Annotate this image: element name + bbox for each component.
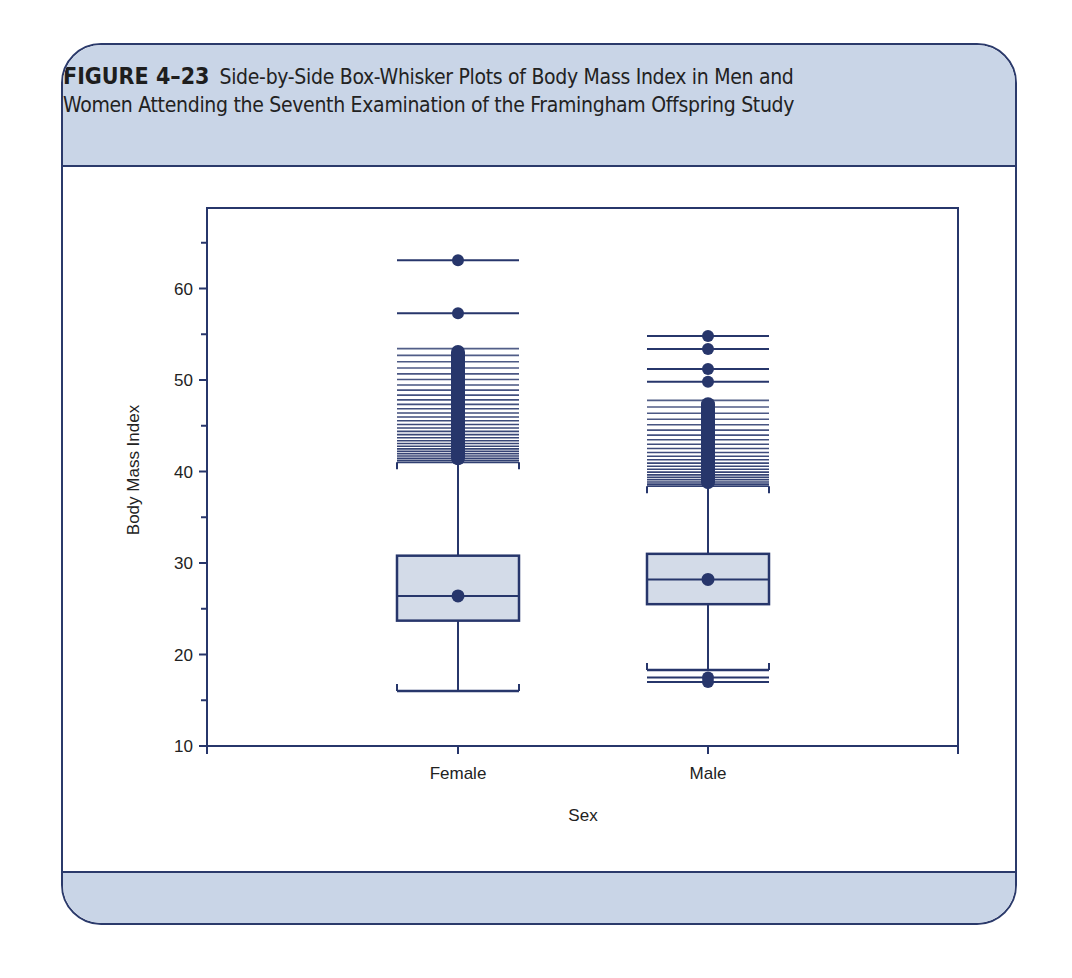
male-outlier-dot <box>702 330 714 342</box>
x-tick-label-male: Male <box>690 764 727 783</box>
female-outlier-dots-band <box>451 345 465 465</box>
female-iqr-box <box>397 556 519 621</box>
female-outlier-dot <box>452 307 464 319</box>
female-mean-dot <box>452 589 465 602</box>
y-axis-label: Body Mass Index <box>124 404 143 535</box>
plot-area-border <box>207 208 958 746</box>
male-outlier-dot <box>702 676 714 688</box>
male-outlier-dot <box>702 363 714 375</box>
male-outlier-dots-band <box>701 397 715 489</box>
y-tick-label: 50 <box>174 371 193 390</box>
x-tick-label-female: Female <box>430 764 487 783</box>
male-mean-dot <box>702 573 715 586</box>
y-tick-label: 30 <box>174 554 193 573</box>
box-plot-chart: 102030405060FemaleMaleSexBody Mass Index <box>0 0 1072 978</box>
male-outlier-dot <box>702 376 714 388</box>
y-tick-label: 60 <box>174 280 193 299</box>
x-axis-label: Sex <box>568 806 598 825</box>
y-tick-label: 40 <box>174 463 193 482</box>
male-outlier-dot <box>702 343 714 355</box>
y-tick-label: 10 <box>174 737 193 756</box>
female-outlier-dot <box>452 254 464 266</box>
y-tick-label: 20 <box>174 646 193 665</box>
